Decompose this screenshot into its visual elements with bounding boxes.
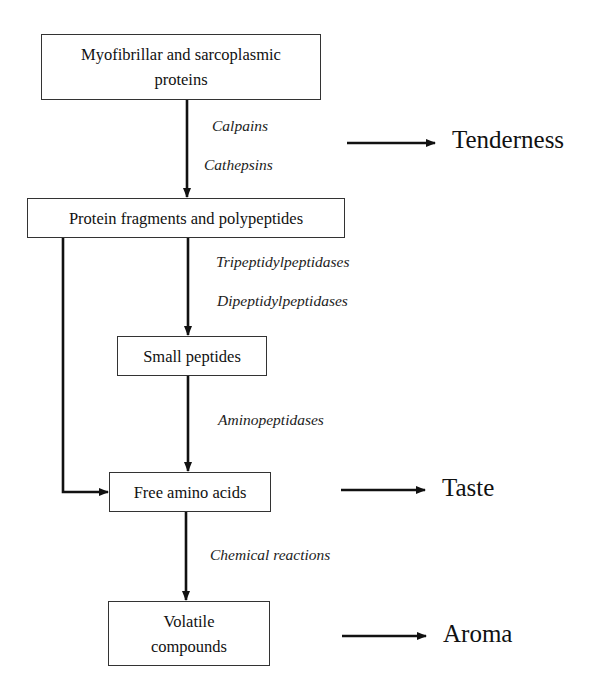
node-free-amino-acids: Free amino acids: [109, 472, 271, 512]
arrow-fragments-to-free-amino-acids: [63, 237, 108, 492]
node-label: Small peptides: [143, 344, 241, 369]
enzyme-calpains: Calpains: [212, 117, 268, 135]
node-label-line1: Volatile: [163, 609, 214, 634]
outcome-tenderness: Tenderness: [452, 126, 564, 154]
node-volatile-compounds: Volatile compounds: [108, 601, 270, 666]
node-small-peptides: Small peptides: [117, 336, 267, 376]
node-label-line2: compounds: [151, 634, 227, 659]
enzyme-aminopeptidases: Aminopeptidases: [218, 411, 324, 429]
node-label: Protein fragments and polypeptides: [69, 206, 303, 231]
node-label: Free amino acids: [134, 480, 247, 505]
outcome-taste: Taste: [442, 474, 494, 502]
enzyme-dipeptidylpeptidases: Dipeptidylpeptidases: [217, 292, 348, 310]
node-label-line2: proteins: [154, 67, 207, 92]
enzyme-cathepsins: Cathepsins: [204, 156, 273, 174]
node-protein-fragments: Protein fragments and polypeptides: [27, 198, 345, 238]
node-label-line1: Myofibrillar and sarcoplasmic: [81, 42, 281, 67]
enzyme-tripeptidylpeptidases: Tripeptidylpeptidases: [216, 253, 349, 271]
connector-lines: [0, 0, 590, 690]
node-myofibrillar-sarcoplasmic-proteins: Myofibrillar and sarcoplasmic proteins: [41, 34, 321, 100]
outcome-aroma: Aroma: [443, 620, 512, 648]
enzyme-chemical-reactions: Chemical reactions: [210, 546, 330, 564]
